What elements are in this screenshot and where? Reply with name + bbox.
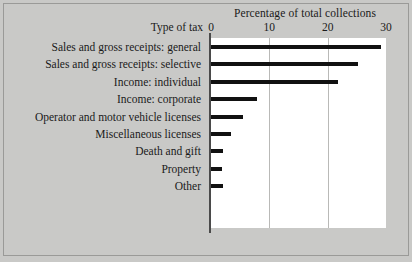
x-tick-label-30: 30	[380, 21, 392, 33]
bar-row	[211, 91, 386, 108]
x-tick-label-10: 10	[264, 21, 276, 33]
x-axis-tick-labels: 0102030	[0, 21, 412, 35]
category-label: Other	[0, 180, 205, 192]
bar-chart-figure: Percentage of total collections Type of …	[0, 0, 412, 262]
x-tick-label-20: 20	[322, 21, 334, 33]
x-tick-label-0: 0	[208, 21, 214, 33]
bar-row	[211, 143, 386, 160]
category-label: Sales and gross receipts: general	[0, 41, 205, 53]
bar-row	[211, 56, 386, 73]
category-label: Income: individual	[0, 76, 205, 88]
chart-title: Percentage of total collections	[205, 7, 405, 19]
bar	[211, 167, 222, 171]
category-labels: Sales and gross receipts: generalSales a…	[0, 38, 205, 228]
bar	[211, 45, 381, 49]
bar	[211, 80, 338, 84]
bar	[211, 132, 231, 136]
category-label: Sales and gross receipts: selective	[0, 58, 205, 70]
bar-row	[211, 125, 386, 142]
bar-row	[211, 178, 386, 195]
category-label: Miscellaneous licenses	[0, 128, 205, 140]
category-label: Income: corporate	[0, 93, 205, 105]
bar	[211, 115, 243, 119]
bar-row	[211, 108, 386, 125]
bar	[211, 62, 358, 66]
category-label: Death and gift	[0, 145, 205, 157]
bar	[211, 184, 223, 188]
bar	[211, 149, 223, 153]
bar-row	[211, 73, 386, 90]
bar	[211, 97, 257, 101]
category-label: Property	[0, 163, 205, 175]
bar-row	[211, 160, 386, 177]
category-label: Operator and motor vehicle licenses	[0, 111, 205, 123]
bars-container	[211, 38, 386, 228]
bar-row	[211, 38, 386, 55]
